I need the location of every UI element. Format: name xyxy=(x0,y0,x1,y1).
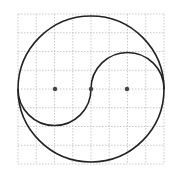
yin-yang-diagram xyxy=(0,0,175,181)
point-right-center xyxy=(125,87,129,91)
point-center xyxy=(89,87,93,91)
point-left-center xyxy=(53,87,57,91)
